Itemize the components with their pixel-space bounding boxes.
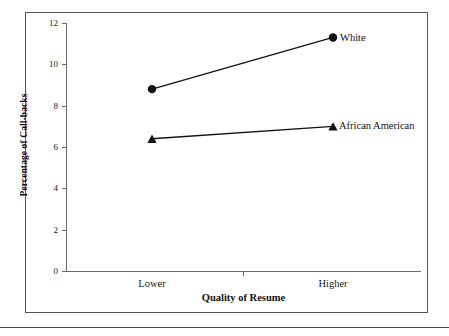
- y-tick-label-6: 6: [28, 143, 58, 152]
- series-label-white: White: [340, 32, 366, 43]
- y-axis-title: Percentage of Call-backs: [19, 45, 29, 245]
- y-tick-mark-8: [62, 106, 66, 107]
- x-tick-mark-center: [243, 271, 244, 276]
- y-tick-label-8: 8: [28, 102, 58, 111]
- y-tick-mark-0: [62, 271, 66, 272]
- figure-frame: [25, 12, 428, 313]
- y-tick-label-10: 10: [28, 60, 58, 69]
- y-tick-mark-4: [62, 188, 66, 189]
- y-tick-label-12: 12: [28, 19, 58, 28]
- y-tick-mark-6: [62, 147, 66, 148]
- y-axis-line: [66, 23, 67, 272]
- y-tick-label-2: 2: [28, 226, 58, 235]
- x-axis-title: Quality of Resume: [66, 292, 421, 303]
- y-tick-label-0: 0: [28, 267, 58, 276]
- y-tick-mark-2: [62, 230, 66, 231]
- y-tick-mark-10: [62, 64, 66, 65]
- y-tick-label-4: 4: [28, 184, 58, 193]
- y-tick-mark-12: [62, 23, 66, 24]
- bottom-horizontal-rule: [0, 327, 449, 328]
- x-tick-label-higher: Higher: [288, 278, 378, 290]
- x-tick-label-lower: Lower: [107, 278, 197, 290]
- series-label-african-american: African American: [339, 120, 415, 131]
